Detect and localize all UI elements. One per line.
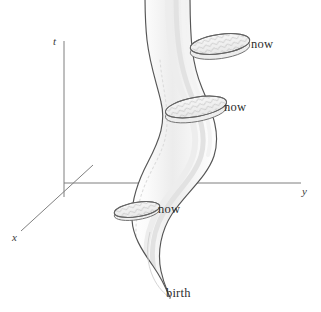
now-slice-top (189, 30, 251, 62)
now-label-bottom: now (158, 203, 180, 216)
x-axis (21, 165, 93, 231)
figure-canvas: t x y now now now birth (0, 0, 321, 312)
y-axis-label: y (302, 186, 307, 197)
now-label-middle: now (224, 101, 246, 114)
now-label-top: now (251, 38, 273, 51)
t-axis-label: t (53, 36, 56, 47)
x-axis-label: x (12, 232, 17, 243)
birth-label: birth (166, 287, 191, 300)
